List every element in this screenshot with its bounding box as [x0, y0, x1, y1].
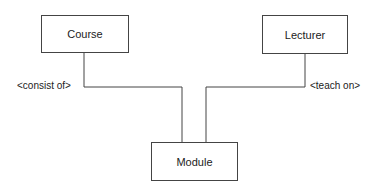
- entity-module-label: Module: [176, 156, 212, 168]
- entity-lecturer: Lecturer: [262, 15, 348, 54]
- entity-lecturer-label: Lecturer: [285, 29, 325, 41]
- entity-module: Module: [151, 142, 238, 181]
- relationship-consist-of-label: <consist of>: [17, 80, 71, 91]
- relationship-teach-on-label: <teach on>: [310, 80, 360, 91]
- entity-course-label: Course: [67, 28, 102, 40]
- entity-course: Course: [41, 15, 129, 53]
